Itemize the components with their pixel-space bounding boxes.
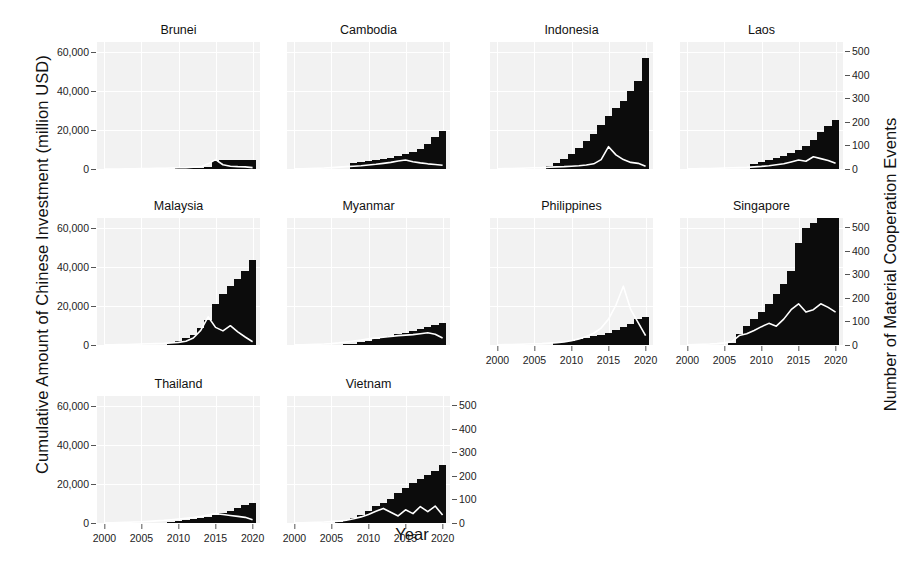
x-tick-label: 2010 — [560, 354, 583, 366]
panel-cambodia: Cambodia — [287, 42, 450, 169]
x-tick-label: 2000 — [486, 354, 509, 366]
x-tick-label: 2020 — [241, 532, 264, 544]
panel-vietnam: Vietnam — [287, 396, 450, 523]
plot-area — [97, 396, 260, 523]
y-tick-label-left: 40,000 — [57, 439, 89, 451]
panel-title-myanmar: Myanmar — [287, 199, 450, 213]
x-tick-label: 2010 — [750, 354, 773, 366]
x-tick-label: 2020 — [431, 532, 454, 544]
y-tick-label-right: 0 — [852, 339, 858, 351]
plot-area — [97, 42, 260, 169]
panel-thailand: Thailand — [97, 396, 260, 523]
y-tick-label-right: 0 — [459, 517, 465, 529]
y-tick-label-left: 0 — [83, 339, 89, 351]
y-tick-label-right: 200 — [852, 116, 870, 128]
y-tick-label-left: 20,000 — [57, 478, 89, 490]
plot-area — [680, 42, 843, 169]
x-tick-label: 2005 — [130, 532, 153, 544]
line-series-events — [680, 218, 843, 345]
y-tick-label-left: 40,000 — [57, 261, 89, 273]
panel-philippines: Philippines — [490, 218, 653, 345]
panel-indonesia: Indonesia — [490, 42, 653, 169]
y-tick-label-right: 400 — [459, 423, 477, 435]
line-series-events — [680, 42, 843, 169]
y-axis-ticks-left: 020,00040,00060,000 — [31, 396, 89, 523]
y-tick-label-right: 100 — [459, 493, 477, 505]
x-tick-label: 2000 — [283, 532, 306, 544]
x-axis-ticks: 20002005201020152020 — [680, 345, 843, 371]
y-tick-label-left: 0 — [83, 517, 89, 529]
plot-area — [287, 42, 450, 169]
plot-area — [97, 218, 260, 345]
x-axis-ticks: 20002005201020152020 — [287, 523, 450, 549]
figure-root: Cumulative Amount of Chinese Investment … — [0, 0, 920, 569]
y-tick-label-right: 300 — [852, 268, 870, 280]
panel-title-thailand: Thailand — [97, 377, 260, 391]
y-tick-label-right: 300 — [852, 92, 870, 104]
y-tick-label-left: 60,000 — [57, 222, 89, 234]
x-tick-label: 2000 — [93, 532, 116, 544]
line-series-events — [287, 396, 450, 523]
plot-area — [490, 218, 653, 345]
panel-title-vietnam: Vietnam — [287, 377, 450, 391]
y-tick-label-left: 60,000 — [57, 400, 89, 412]
y-tick-label-right: 200 — [459, 470, 477, 482]
x-tick-label: 2005 — [320, 532, 343, 544]
x-tick-label: 2010 — [167, 532, 190, 544]
panel-title-brunei: Brunei — [97, 23, 260, 37]
x-tick-label: 2010 — [357, 532, 380, 544]
line-series-events — [287, 218, 450, 345]
panel-title-indonesia: Indonesia — [490, 23, 653, 37]
line-series-events — [490, 42, 653, 169]
line-series-events — [97, 396, 260, 523]
x-tick-label: 2015 — [597, 354, 620, 366]
panel-title-cambodia: Cambodia — [287, 23, 450, 37]
y-tick-label-right: 400 — [852, 69, 870, 81]
y-tick-label-right: 500 — [852, 45, 870, 57]
y-axis-ticks-left: 020,00040,00060,000 — [31, 42, 89, 169]
plot-area — [490, 42, 653, 169]
line-series-events — [97, 218, 260, 345]
y-tick-label-left: 60,000 — [57, 46, 89, 58]
line-series-events — [490, 218, 653, 345]
x-tick-label: 2015 — [204, 532, 227, 544]
panel-singapore: Singapore — [680, 218, 843, 345]
y-tick-label-right: 200 — [852, 292, 870, 304]
x-tick-label: 2020 — [634, 354, 657, 366]
y-axis-ticks-right: 0100200300400500 — [450, 396, 508, 523]
plot-area — [680, 218, 843, 345]
y-tick-label-left: 0 — [83, 163, 89, 175]
panel-malaysia: Malaysia — [97, 218, 260, 345]
y-tick-label-right: 500 — [459, 399, 477, 411]
panel-myanmar: Myanmar — [287, 218, 450, 345]
y-axis-ticks-right: 0100200300400500 — [843, 218, 901, 345]
y-tick-label-right: 0 — [852, 163, 858, 175]
panel-title-singapore: Singapore — [680, 199, 843, 213]
y-tick-label-left: 40,000 — [57, 85, 89, 97]
x-tick-label: 2015 — [787, 354, 810, 366]
y-axis-ticks-left: 020,00040,00060,000 — [31, 218, 89, 345]
panel-title-philippines: Philippines — [490, 199, 653, 213]
x-tick-label: 2020 — [824, 354, 847, 366]
y-tick-label-right: 500 — [852, 221, 870, 233]
plot-area — [287, 218, 450, 345]
x-axis-ticks: 20002005201020152020 — [490, 345, 653, 371]
x-tick-label: 2000 — [676, 354, 699, 366]
y-tick-label-right: 100 — [852, 315, 870, 327]
line-series-events — [97, 42, 260, 169]
panel-title-laos: Laos — [680, 23, 843, 37]
line-series-events — [287, 42, 450, 169]
y-tick-label-right: 400 — [852, 245, 870, 257]
y-axis-ticks-right: 0100200300400500 — [843, 42, 901, 169]
y-tick-label-left: 20,000 — [57, 300, 89, 312]
panel-laos: Laos — [680, 42, 843, 169]
y-tick-label-right: 100 — [852, 139, 870, 151]
panel-title-malaysia: Malaysia — [97, 199, 260, 213]
x-tick-label: 2015 — [394, 532, 417, 544]
x-tick-label: 2005 — [713, 354, 736, 366]
plot-area — [287, 396, 450, 523]
panel-brunei: Brunei — [97, 42, 260, 169]
y-tick-label-left: 20,000 — [57, 124, 89, 136]
x-tick-label: 2005 — [523, 354, 546, 366]
x-axis-ticks: 20002005201020152020 — [97, 523, 260, 549]
